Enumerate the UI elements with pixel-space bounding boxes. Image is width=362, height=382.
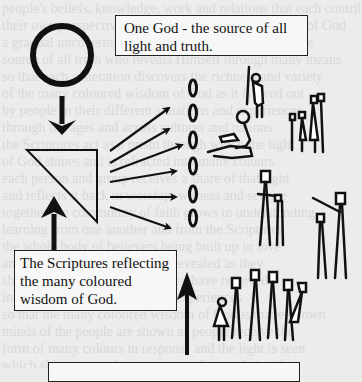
big-up-arrow-icon <box>177 272 197 355</box>
rays <box>110 108 182 228</box>
up-arrow-icon <box>41 196 67 250</box>
people-figures <box>208 67 346 340</box>
oval-icon <box>190 80 197 96</box>
ray-arrow-icon <box>110 129 169 163</box>
light-ovals <box>190 80 197 226</box>
ray-arrow-icon <box>110 108 169 151</box>
crowd-of-people-icon <box>214 270 306 340</box>
oval-icon <box>190 186 197 202</box>
oval-icon <box>190 105 197 121</box>
ray-arrow-icon <box>110 171 176 182</box>
adult-with-child-icon <box>258 171 283 245</box>
bottom-label-box <box>48 362 300 382</box>
god-label-text: One God - the source of all light and tr… <box>124 20 287 54</box>
ray-arrow-icon <box>110 145 182 172</box>
scriptures-label-box: The Scriptures reflecting the many colou… <box>14 250 177 311</box>
god-label-box: One God - the source of all light and tr… <box>115 15 308 56</box>
person-reading-book-icon <box>208 111 252 158</box>
oval-icon <box>190 210 197 226</box>
oval-icon <box>190 158 197 174</box>
scriptures-label-text: The Scriptures reflecting the many colou… <box>20 255 169 307</box>
family-of-four-icon <box>290 94 324 152</box>
elderly-person-with-staff-icon <box>247 67 263 117</box>
oval-icon <box>190 132 197 148</box>
down-arrow-icon <box>48 96 76 135</box>
god-circle-icon <box>33 26 91 84</box>
adult-pointing-with-child-icon <box>313 193 346 278</box>
ray-arrow-icon <box>110 207 170 228</box>
